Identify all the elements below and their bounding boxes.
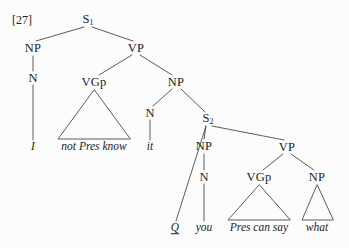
node-label-text: NP (309, 170, 325, 184)
tree-branch-lines (0, 0, 349, 248)
leaf-you: you (196, 222, 213, 234)
node-subscript: 1 (90, 18, 94, 27)
edge-group (33, 27, 314, 221)
node-label-s2: S2 (202, 112, 213, 126)
leaf-it: it (147, 141, 153, 153)
node-label-text: N (199, 170, 208, 184)
tree-edge-s1-to-vp1 (92, 27, 133, 41)
node-label-np1: NP (25, 42, 41, 55)
syntax-tree-figure: [27] S1NPVPNVGpNPNS2NPVPNVGpNP Inot Pres… (0, 0, 349, 248)
tri-vgp1 (58, 90, 130, 139)
node-label-text: VGp (82, 75, 107, 89)
node-label-vgp1: VGp (82, 76, 107, 89)
tree-edge-vp2-to-np4 (291, 154, 314, 170)
node-label-vp1: VP (128, 42, 144, 55)
node-label-vp2: VP (279, 141, 295, 154)
node-label-s1: S1 (82, 13, 93, 27)
node-label-text: VP (279, 140, 295, 154)
leaf-q: Q (171, 222, 179, 234)
tri-np4 (302, 185, 333, 220)
tree-edge-s2-to-vp2 (212, 126, 284, 140)
node-label-np2: NP (168, 76, 184, 89)
node-label-n1: N (28, 72, 37, 85)
tree-edge-vp1-to-vgp1 (99, 55, 132, 75)
node-label-text: NP (168, 75, 184, 89)
tree-edge-vp2-to-vgp2 (263, 154, 283, 170)
tree-edge-s1-to-np1 (36, 27, 84, 41)
node-label-np3: NP (196, 140, 212, 153)
node-label-text: N (145, 106, 154, 120)
node-label-text: VGp (247, 170, 272, 184)
leaf-not-pres-know: not Pres know (61, 141, 126, 153)
tree-edge-np2-to-n2 (153, 89, 172, 106)
node-label-np4: NP (309, 171, 325, 184)
node-label-n3: N (199, 171, 208, 184)
tree-edge-vp1-to-np2 (140, 55, 172, 75)
example-number: [27] (12, 14, 32, 26)
node-label-text: N (28, 71, 37, 85)
tri-vgp2 (228, 185, 290, 220)
leaf-what: what (306, 222, 328, 234)
leaf-pres-can-say: Pres can say (230, 222, 288, 234)
node-subscript: 2 (210, 117, 214, 126)
node-label-text: VP (128, 41, 144, 55)
node-label-n2: N (145, 107, 154, 120)
node-label-text: NP (196, 139, 212, 153)
leaf-i: I (31, 141, 35, 153)
node-label-vgp2: VGp (247, 171, 272, 184)
tree-edge-np2-to-s2 (181, 89, 205, 112)
node-label-text: NP (25, 41, 41, 55)
